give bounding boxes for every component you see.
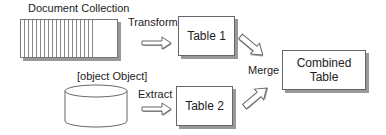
merge-arrow-up-icon <box>240 83 272 111</box>
merge-label: Merge <box>248 64 279 76</box>
combined-table-label-line2: Table <box>310 70 339 84</box>
merge-arrow-down-icon <box>236 32 268 60</box>
transform-label: Transform <box>128 16 178 28</box>
table1-label: Table 1 <box>187 29 226 43</box>
table1-box: Table 1 <box>178 16 235 56</box>
transform-arrow-icon <box>140 35 174 51</box>
table2-box: Table 2 <box>176 86 233 126</box>
database-label: [object Object] <box>77 70 147 82</box>
document-collection-icon <box>20 19 118 58</box>
extract-label: Extract <box>138 88 172 100</box>
database-cylinder-icon <box>63 83 129 131</box>
document-collection-label: Document Collection <box>28 2 130 14</box>
extract-arrow-icon <box>140 101 174 117</box>
combined-table-label-line1: Combined <box>297 56 352 70</box>
combined-table-box: Combined Table <box>282 50 366 90</box>
table2-label: Table 2 <box>185 99 224 113</box>
